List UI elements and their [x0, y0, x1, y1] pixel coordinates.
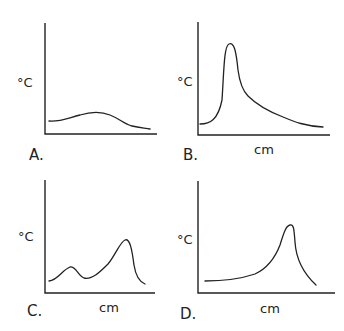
panel-d-ylabel: °C [177, 232, 193, 247]
panel-d-xlabel: cm [260, 301, 280, 316]
panel-c: °C C. cm [18, 180, 155, 320]
panel-b-label: B. [183, 146, 198, 164]
figure-four-panel-temperature-profiles: °C A. °C B. cm °C C. cm °C D. cm [0, 0, 344, 331]
panel-d-axes [198, 181, 335, 293]
panel-b: °C B. cm [177, 22, 330, 164]
panel-b-curve [200, 44, 323, 127]
panel-a-axes [45, 23, 157, 134]
panel-b-xlabel: cm [254, 142, 274, 157]
panel-d-curve [205, 225, 316, 285]
panel-b-axes [198, 22, 330, 135]
panel-a: °C A. [17, 23, 157, 164]
panel-a-curve [49, 112, 150, 129]
panel-b-ylabel: °C [177, 74, 193, 89]
panel-d: °C D. cm [177, 181, 335, 323]
panel-d-label: D. [180, 305, 196, 323]
panel-a-ylabel: °C [17, 75, 33, 90]
panel-c-label: C. [27, 302, 42, 320]
panel-c-axes [45, 180, 155, 293]
panel-c-curve [49, 240, 145, 284]
panel-a-label: A. [29, 146, 44, 164]
panel-c-ylabel: °C [18, 229, 34, 244]
panel-c-xlabel: cm [99, 300, 119, 315]
